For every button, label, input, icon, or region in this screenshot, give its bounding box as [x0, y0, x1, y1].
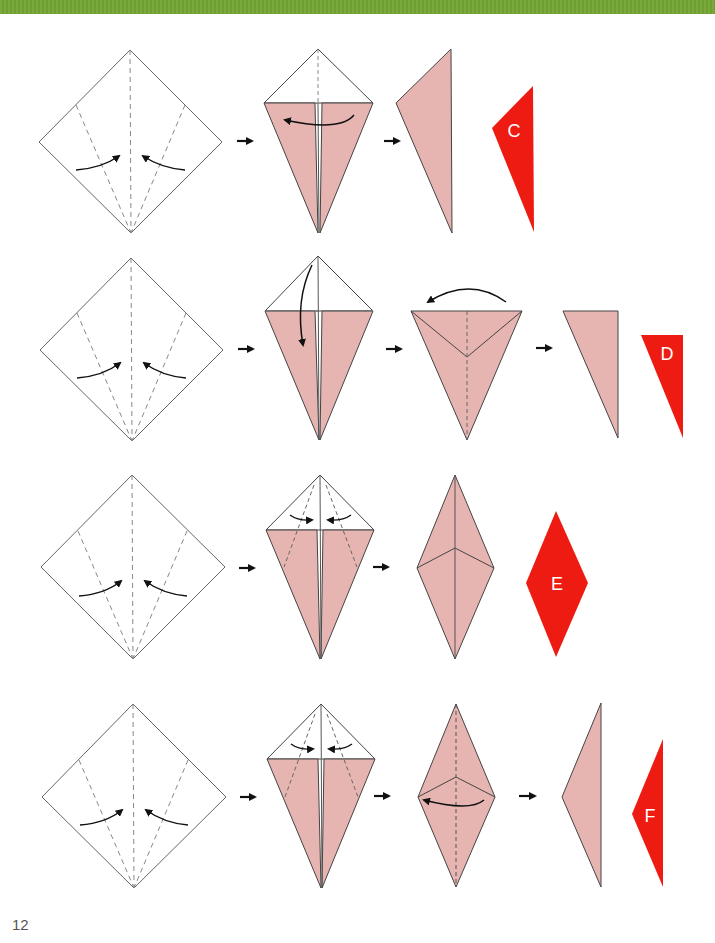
- row-d: D: [40, 256, 683, 441]
- step-folded-half: [396, 49, 452, 233]
- page-number: 12: [12, 916, 29, 933]
- step-square-valley-folds: [40, 258, 223, 441]
- row-e: E: [41, 475, 588, 659]
- result-shape-d: D: [641, 335, 683, 438]
- step-kite-with-folds: [267, 704, 375, 888]
- row-f: F: [42, 703, 663, 888]
- result-shape-f: F: [632, 739, 663, 887]
- result-shape-c: C: [492, 86, 534, 232]
- step-diamond: [418, 704, 495, 887]
- step-square-valley-folds: [39, 50, 222, 233]
- step-triangle: [411, 289, 522, 440]
- origami-instruction-diagram: C: [0, 0, 715, 943]
- step-kite: [264, 49, 373, 233]
- shape-label-c: C: [508, 121, 521, 141]
- row-c: C: [39, 49, 534, 233]
- step-square-valley-folds: [41, 475, 225, 659]
- shape-label-d: D: [661, 344, 674, 364]
- step-folded-half: [562, 703, 601, 887]
- step-diamond: [417, 475, 494, 659]
- fold-arrow-icon: [428, 289, 506, 302]
- shape-label-f: F: [645, 806, 656, 826]
- step-kite-with-folds: [266, 475, 374, 659]
- shape-label-e: E: [551, 574, 563, 594]
- step-kite: [265, 256, 373, 440]
- result-shape-e: E: [526, 511, 588, 657]
- step-square-valley-folds: [42, 704, 226, 888]
- step-folded-half: [563, 311, 618, 438]
